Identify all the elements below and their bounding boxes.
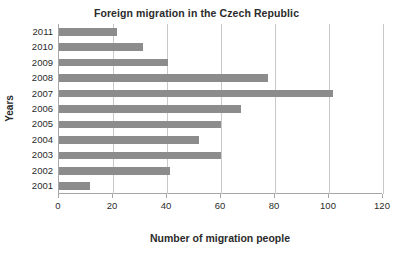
bar-chart: Foreign migration in the Czech Republic …	[0, 0, 393, 261]
x-tick-80: 80	[254, 200, 294, 211]
x-tick-120: 120	[362, 200, 393, 211]
x-tick-60: 60	[200, 200, 240, 211]
bar-2004[interactable]	[59, 136, 199, 144]
bar-2010[interactable]	[59, 43, 143, 51]
y-axis-title: Years	[4, 79, 15, 139]
x-tick-mark	[166, 194, 167, 198]
bar-row	[59, 179, 382, 194]
y-tick-2011: 2011	[19, 27, 53, 37]
bar-2002[interactable]	[59, 167, 170, 175]
bar-row	[59, 117, 382, 132]
bar-2003[interactable]	[59, 152, 221, 160]
y-tick-2004: 2004	[19, 135, 53, 145]
x-tick-40: 40	[146, 200, 186, 211]
bar-2008[interactable]	[59, 74, 268, 82]
x-tick-mark	[58, 194, 59, 198]
x-tick-mark	[328, 194, 329, 198]
plot-area	[58, 24, 382, 194]
y-tick-2005: 2005	[19, 119, 53, 129]
bar-row	[59, 24, 382, 39]
bar-2007[interactable]	[59, 90, 333, 98]
bar-2009[interactable]	[59, 59, 168, 67]
chart-title: Foreign migration in the Czech Republic	[0, 7, 393, 19]
x-tick-mark	[382, 194, 383, 198]
bar-row	[59, 55, 382, 70]
y-tick-2008: 2008	[19, 73, 53, 83]
y-tick-2003: 2003	[19, 150, 53, 160]
bar-2006[interactable]	[59, 105, 241, 113]
x-tick-mark	[220, 194, 221, 198]
x-tick-mark	[274, 194, 275, 198]
y-tick-2010: 2010	[19, 42, 53, 52]
bar-2001[interactable]	[59, 182, 90, 190]
y-tick-2006: 2006	[19, 104, 53, 114]
bar-row	[59, 86, 382, 101]
bar-row	[59, 101, 382, 116]
x-tick-100: 100	[308, 200, 348, 211]
y-tick-2009: 2009	[19, 58, 53, 68]
x-tick-0: 0	[38, 200, 78, 211]
x-tick-20: 20	[92, 200, 132, 211]
bar-row	[59, 70, 382, 85]
bar-2011[interactable]	[59, 28, 117, 36]
bar-row	[59, 148, 382, 163]
y-tick-2007: 2007	[19, 89, 53, 99]
bar-row	[59, 163, 382, 178]
gridline	[383, 24, 384, 194]
y-tick-2001: 2001	[19, 181, 53, 191]
bar-row	[59, 132, 382, 147]
bar-row	[59, 39, 382, 54]
y-tick-2002: 2002	[19, 166, 53, 176]
x-tick-mark	[112, 194, 113, 198]
bar-2005[interactable]	[59, 121, 221, 129]
x-axis-title: Number of migration people	[58, 232, 382, 244]
